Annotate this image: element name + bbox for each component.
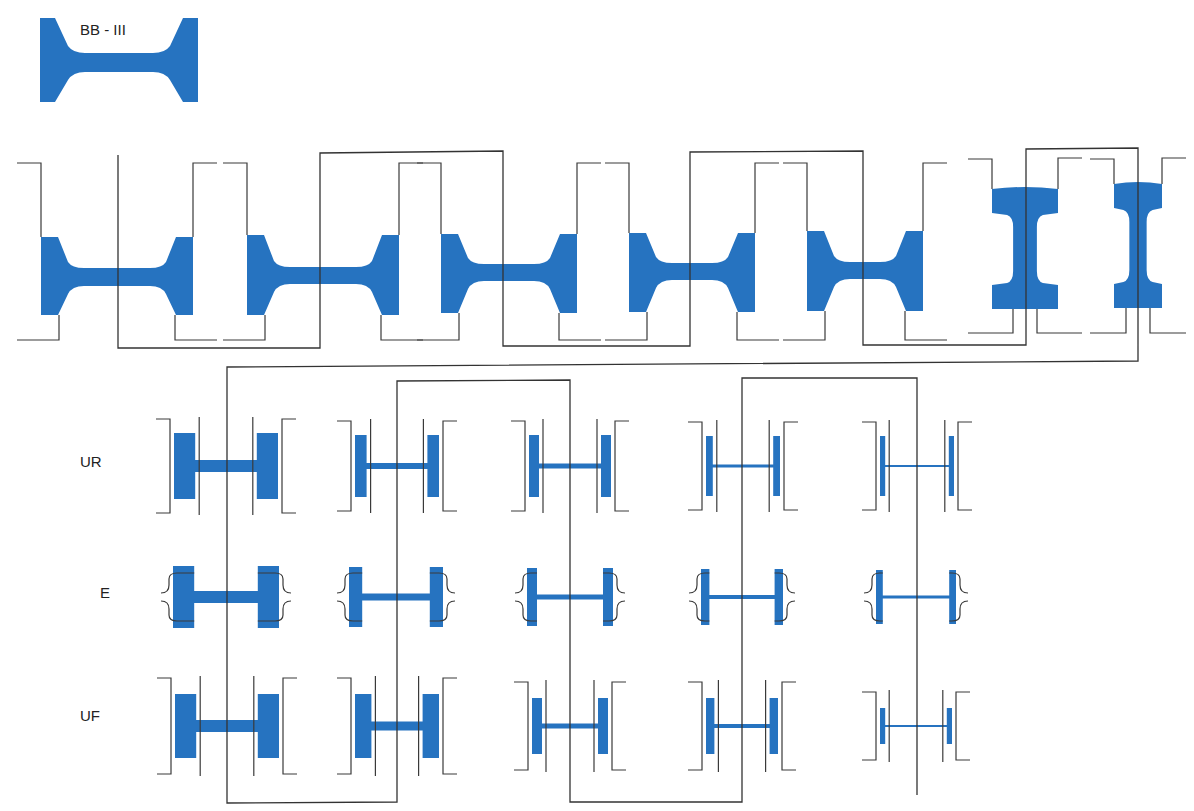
ur-pass-4: [688, 420, 798, 512]
row-label-e: E: [100, 584, 110, 601]
uf-pass-5: [862, 690, 970, 762]
bb-iii-label: BB - III: [80, 21, 126, 38]
breakdown-pass-5: [783, 163, 947, 340]
breakdown-pass-1: [17, 163, 217, 340]
breakdown-pass-4: [605, 163, 779, 340]
breakdown-pass-3: [417, 163, 601, 340]
e-pass-1: [161, 566, 291, 628]
ur-universal-rougher-row: [156, 417, 972, 515]
rolling-pass-diagram: [0, 0, 1194, 811]
e-pass-2: [337, 567, 455, 627]
breakdown-pass-6: [968, 158, 1082, 333]
e-edger-row: [161, 566, 968, 628]
ur-pass-1: [156, 417, 296, 515]
breakdown-passes-row: [17, 158, 1186, 340]
row-label-uf: UF: [80, 707, 100, 724]
e-pass-5: [864, 570, 968, 624]
breakdown-pass-2: [223, 163, 423, 340]
uf-universal-finisher-row: [157, 676, 970, 776]
row-label-ur: UR: [80, 453, 102, 470]
